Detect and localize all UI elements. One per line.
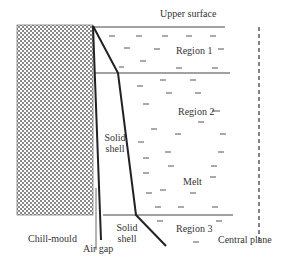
solid-shell-upper-label: Solid shell [101, 132, 129, 154]
chill-mould-block [17, 25, 93, 215]
solid-shell-upper-line1: Solid [101, 132, 129, 143]
central-plane-label: Central plane [218, 234, 272, 245]
upper-surface-label: Upper surface [160, 8, 216, 19]
solid-shell-upper-line2: shell [101, 143, 129, 154]
region3-label: Region 3 [176, 223, 212, 234]
casting-diagram [0, 0, 288, 266]
solid-shell-lower-label: Solid shell [110, 222, 144, 244]
shell-outer-line [93, 26, 101, 240]
region1-label: Region 1 [176, 45, 212, 56]
chill-mould-label: Chill-mould [28, 233, 77, 244]
solid-shell-lower-line2: shell [110, 233, 144, 244]
melt-label: Melt [183, 176, 202, 187]
air-gap-label: Air gap [83, 243, 113, 254]
solid-shell-lower-line1: Solid [110, 222, 144, 233]
region2-label: Region 2 [178, 106, 214, 117]
